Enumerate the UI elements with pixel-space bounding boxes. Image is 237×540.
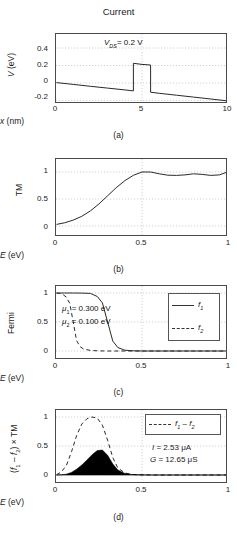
panel-d-current-value: = 2.53 μA — [156, 443, 191, 452]
panel-c-ytick-1: 0.5 — [20, 317, 48, 326]
panel-d-curve-product-filled — [57, 450, 228, 475]
legend-line-dashed-icon — [149, 424, 171, 425]
panel-d-ytick-1: 0.5 — [20, 441, 48, 450]
panel-a-ytick-3: -0.2 — [16, 92, 48, 101]
panel-a-xtick-0: 0 — [45, 104, 65, 113]
panel-a-ytick-1: 0.2 — [20, 60, 48, 69]
panel-d-current-annotation: I = 2.53 μA — [152, 442, 191, 453]
panel-b-ytick-1: 0.5 — [20, 194, 48, 203]
panel-a-ytick-0: 0.4 — [20, 44, 48, 53]
panel-c-ytick-0: 1 — [26, 288, 48, 297]
panel-d-conductance-value: = 12.65 μS — [158, 455, 197, 464]
panel-c-ytick-2: 0 — [26, 346, 48, 355]
figure-title: Current — [0, 6, 237, 17]
panel-c-legend-label-f2: f2 — [198, 323, 203, 334]
panel-c-mu1-value: = 0.300 eV — [72, 304, 111, 313]
panel-d-current-symbol: I — [152, 443, 154, 452]
panel-b-caption: (b) — [0, 264, 237, 274]
panel-c-mu1-annotation: μ1 = 0.300 eV — [62, 304, 111, 315]
panel-d-xtick-2: 1 — [218, 485, 237, 494]
panel-d-legend-label: f1 – f2 — [175, 419, 194, 430]
panel-b-ylabel: TM — [14, 170, 24, 210]
panel-d-conductance-annotation: G = 12.65 μS — [150, 454, 198, 465]
panel-c-caption: (c) — [0, 387, 237, 397]
panel-c-xtick-1: 0.5 — [128, 361, 154, 370]
panel-c-legend-label-f1: f1 — [198, 300, 203, 311]
panel-b-xtick-2: 1 — [218, 238, 237, 247]
panel-c-legend-item-f1: f1 — [169, 294, 219, 317]
panel-a-xtick-2: 10 — [216, 104, 237, 113]
panel-c-mu2-annotation: μ2 = 0.100 eV — [62, 317, 111, 328]
panel-a-vds-value: = 0.2 V — [117, 38, 143, 47]
panel-d-ytick-0: 1 — [26, 412, 48, 421]
panel-c-legend-item-f2: f2 — [169, 317, 219, 340]
panel-c-mu2-value: = 0.100 eV — [72, 317, 111, 326]
panel-a-vds-annotation: VDS= 0.2 V — [104, 38, 142, 49]
legend-line-solid-icon — [172, 305, 194, 306]
panel-b-ytick-0: 1 — [26, 166, 48, 175]
panel-d-ytick-2: 0 — [26, 470, 48, 479]
panel-a-caption: (a) — [0, 130, 237, 140]
panel-d-xtick-1: 0.5 — [128, 485, 154, 494]
panel-b-xtick-1: 0.5 — [128, 238, 154, 247]
panel-a-ytick-2: 0 — [20, 76, 48, 85]
panel-c-xtick-2: 1 — [218, 361, 237, 370]
panel-b-gridlines — [56, 159, 227, 236]
panel-d-xtick-0: 0 — [45, 485, 65, 494]
panel-a-xtick-1: 5 — [131, 104, 151, 113]
panel-d-legend: f1 – f2 — [145, 414, 221, 435]
panel-b-plot-area — [55, 158, 227, 236]
panel-a-ylabel: V (eV) — [6, 41, 16, 89]
panel-c-xtick-0: 0 — [45, 361, 65, 370]
panel-b-xtick-0: 0 — [45, 238, 65, 247]
legend-line-dashed-icon — [172, 328, 194, 329]
panel-c-legend: f1 f2 — [168, 293, 220, 341]
panel-d-legend-item: f1 – f2 — [146, 415, 220, 434]
panel-d-conductance-symbol: G — [150, 455, 156, 464]
panel-c-ylabel: Fermi — [6, 301, 16, 345]
panel-b-ytick-2: 0 — [26, 222, 48, 231]
panel-b-svg — [56, 159, 227, 236]
figure-current: Current V (eV) 0.4 0.2 0 -0.2 — [0, 0, 237, 540]
panel-d-caption: (d) — [0, 512, 237, 522]
